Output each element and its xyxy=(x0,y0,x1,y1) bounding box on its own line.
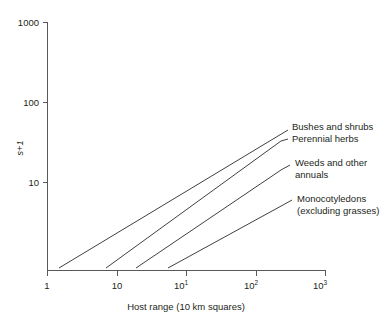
x-tick-group xyxy=(48,271,326,276)
y-tick-label-100: 100 xyxy=(23,97,39,108)
leader-line-monocot xyxy=(283,200,292,205)
x-tick-exponent-10e1: 1 xyxy=(184,279,188,286)
y-axis-title: s+1 xyxy=(15,141,25,156)
x-tick-label-1: 1 xyxy=(44,280,49,291)
x-tick-base-10e2: 10 xyxy=(244,280,255,291)
x-axis-title: Host range (10 km squares) xyxy=(127,301,245,312)
series-label-perennial-herbs: Perennial herbs xyxy=(292,133,359,144)
x-tick-label-10e3: 103 xyxy=(313,279,328,291)
series-line-perennial-herbs xyxy=(106,141,281,268)
series-line-bushes-and-shrubs xyxy=(59,136,278,268)
leader-line-perennial xyxy=(281,139,288,141)
y-tick-label-1000: 1000 xyxy=(18,17,39,28)
leader-line-bushes xyxy=(278,130,288,136)
x-tick-label-10e1: 101 xyxy=(174,279,189,291)
series-line-monocotyledons xyxy=(168,205,283,268)
series-label-weeds-line1: Weeds and other xyxy=(295,157,367,168)
x-tick-base-10e3: 10 xyxy=(313,280,324,291)
series-label-bushes-and-shrubs: Bushes and shrubs xyxy=(292,121,374,132)
y-tick-label-10: 10 xyxy=(28,177,39,188)
leader-line-weeds xyxy=(281,165,290,170)
x-tick-label-10e2: 102 xyxy=(244,279,259,291)
series-label-monocotyledons-line2: (excluding grasses) xyxy=(297,205,379,216)
x-tick-label-10: 10 xyxy=(112,280,123,291)
series-label-monocotyledons-line1: Monocotyledons xyxy=(297,193,366,204)
series-group xyxy=(59,136,283,268)
y-tick-group xyxy=(43,23,48,183)
x-tick-exponent-10e3: 3 xyxy=(323,279,327,286)
log-log-chart: 1000 100 10 s+1 1 10 101 102 103 Host ra… xyxy=(0,0,389,321)
series-label-weeds-line2: annuals xyxy=(295,169,329,180)
series-line-weeds-and-other-annuals xyxy=(136,170,281,268)
figure-container: 1000 100 10 s+1 1 10 101 102 103 Host ra… xyxy=(0,0,389,321)
x-tick-base-10e1: 10 xyxy=(174,280,185,291)
x-tick-exponent-10e2: 2 xyxy=(254,279,258,286)
